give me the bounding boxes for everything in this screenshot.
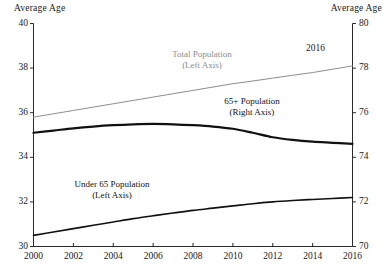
right-axis-tick-78: 78 (359, 62, 381, 72)
left-axis-tick-38: 38 (6, 62, 28, 72)
x-axis-tick-2012: 2012 (258, 251, 288, 261)
left-axis-tick-30: 30 (6, 241, 28, 251)
right-axis-tick-70: 70 (359, 241, 381, 251)
right-axis-tick-76: 76 (359, 107, 381, 117)
x-axis-tick-2002: 2002 (58, 251, 88, 261)
right-axis-tick-80: 80 (359, 18, 381, 28)
series-label-under-65-population-line1: Under 65 Population (75, 179, 150, 189)
series-label-65plus-population-line1: 65+ Population (224, 96, 279, 106)
x-axis-tick-2010: 2010 (218, 251, 248, 261)
x-axis-tick-2006: 2006 (138, 251, 168, 261)
x-axis-tick-2000: 2000 (19, 251, 49, 261)
series-lines (34, 66, 353, 235)
right-axis-tick-74: 74 (359, 151, 381, 161)
series-line-total-population (34, 66, 353, 117)
chart-container: Average Age Average Age 303234363840 707… (0, 0, 386, 267)
series-label-total-population-line2: (Left Axis) (153, 60, 251, 71)
x-axis-tick-2016: 2016 (338, 251, 368, 261)
x-axis-tick-2014: 2014 (298, 251, 328, 261)
left-axis-tick-36: 36 (6, 107, 28, 117)
plot-area (0, 0, 386, 267)
series-line-under-65-population (34, 197, 353, 235)
series-label-65plus-population-line2: (Right Axis) (203, 107, 301, 118)
left-axis-tick-32: 32 (6, 196, 28, 206)
left-axis-tick-34: 34 (6, 151, 28, 161)
x-axis-tick-2008: 2008 (178, 251, 208, 261)
series-line-65-population (34, 124, 353, 144)
annotation-2016: 2016 (306, 43, 325, 53)
right-axis-tick-72: 72 (359, 196, 381, 206)
series-label-65plus-population: 65+ Population (Right Axis) (203, 96, 301, 118)
series-label-total-population-line1: Total Population (172, 49, 232, 59)
series-label-under-65-population-line2: (Left Axis) (58, 190, 166, 201)
series-label-under-65-population: Under 65 Population (Left Axis) (58, 179, 166, 201)
series-label-total-population: Total Population (Left Axis) (153, 49, 251, 71)
x-axis-tick-2004: 2004 (98, 251, 128, 261)
left-axis-tick-40: 40 (6, 18, 28, 28)
